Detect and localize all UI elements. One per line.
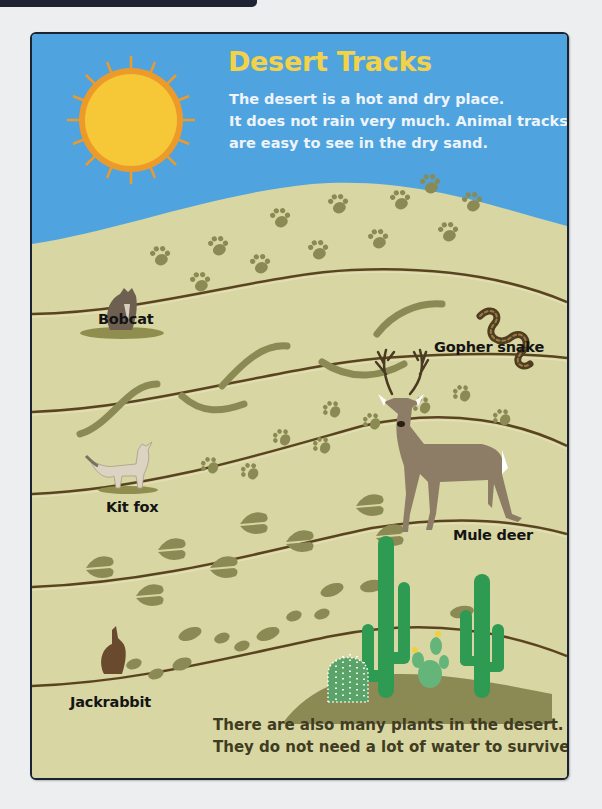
top-bar <box>0 0 257 7</box>
outro-line: They do not need a lot of water to survi… <box>213 736 569 758</box>
sun-icon <box>67 56 195 184</box>
intro-line: It does not rain very much. Animal track… <box>229 110 564 132</box>
label-gopher-snake: Gopher snake <box>434 339 544 355</box>
label-mule-deer: Mule deer <box>453 527 533 543</box>
page-title: Desert Tracks <box>228 46 432 77</box>
label-kit-fox: Kit fox <box>106 499 158 515</box>
intro-line: are easy to see in the dry sand. <box>229 132 564 154</box>
intro-line: The desert is a hot and dry place. <box>229 88 564 110</box>
intro-text: The desert is a hot and dry place. It do… <box>229 88 564 154</box>
worksheet-card: Desert Tracks The desert is a hot and dr… <box>30 32 569 780</box>
outro-line: There are also many plants in the desert… <box>213 714 569 736</box>
label-jackrabbit: Jackrabbit <box>70 694 151 710</box>
label-bobcat: Bobcat <box>98 311 154 327</box>
outro-text: There are also many plants in the desert… <box>213 714 569 758</box>
